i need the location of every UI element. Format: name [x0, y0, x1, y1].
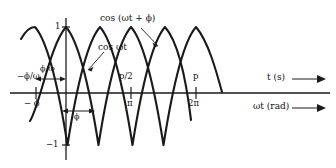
axis-arrowhead-time — [317, 75, 326, 83]
x-tick-label-minus-phi: − ϕ — [24, 99, 40, 108]
curve-label-cos-omega-t: cos ωt — [98, 43, 127, 52]
y-tick-label-plus-one: 1 — [55, 22, 60, 31]
x-tick-label-half-period: p/2 — [119, 72, 133, 81]
interval-label-phi-over-omega: ϕ/ω — [40, 65, 55, 73]
interval-arrowhead-right-phi-over-omega — [60, 77, 66, 82]
x-tick-label-minus-phi-over-omega: −ϕ/ω — [17, 72, 40, 81]
phase-shift-cosine-figure: 1 −1 −ϕ/ω p/2 p − ϕ π 2π cos (ωt + ϕ) co… — [0, 0, 336, 168]
y-tick-label-minus-one: −1 — [46, 140, 59, 149]
axis-label-radians: ωt (rad) — [253, 102, 289, 111]
x-tick-label-two-pi: 2π — [188, 99, 199, 108]
x-tick-label-period: p — [193, 72, 198, 81]
axis-arrowhead-radians — [317, 104, 326, 112]
curve-label-cos-omega-t-plus-phi: cos (ωt + ϕ) — [100, 14, 155, 23]
axis-label-time: t (s) — [267, 73, 285, 82]
leader-line-cos-omega-t — [88, 52, 104, 70]
leader-line-cos-omega-t-plus-phi — [141, 28, 158, 46]
x-tick-label-pi: π — [127, 99, 133, 108]
interval-label-phi: ϕ — [74, 113, 79, 121]
